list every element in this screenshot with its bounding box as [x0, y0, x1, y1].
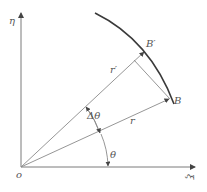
point-b-prime-label: B′ [145, 38, 156, 49]
theta-label: θ [110, 149, 116, 160]
r-prime-label: r′ [110, 64, 118, 75]
theta-arc [101, 134, 108, 166]
xi-label: ξ [185, 174, 196, 180]
delta-theta-label: Δθ [86, 110, 100, 121]
origin-label: o [16, 169, 22, 180]
r-label: r [130, 115, 136, 126]
point-b-label: B [173, 95, 181, 106]
radius-r-prime-line [21, 52, 144, 167]
polar-diagram: η ξ o B B′ r r′ Δθ θ [0, 0, 207, 192]
perpendicular-line [134, 60, 170, 99]
eta-label: η [9, 15, 15, 26]
